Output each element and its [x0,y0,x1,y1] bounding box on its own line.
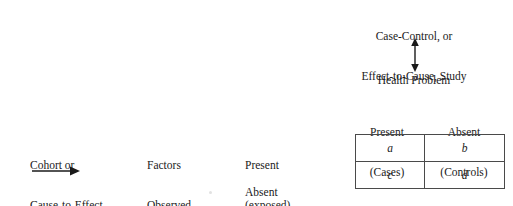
cohort-line-2: Cause-to-Effect [30,199,150,206]
table-cell-d: d [425,162,505,189]
factors-line-2: Observed [147,199,257,206]
row-label-absent-not-exposed: Absent (not exposed) [245,160,350,206]
row-label-absent-line-1: Absent [245,186,350,199]
figure-canvas: Case-Control, or Effect-to-Cause, Study … [0,0,513,206]
table-cell-b: b [425,135,505,162]
table-row: c d [356,162,505,189]
rightward-arrow-icon [32,163,80,179]
contingency-table: a b c d [355,134,505,189]
health-problem-label: Health Problem [324,74,504,87]
table-row: a b [356,135,505,162]
factors-observed-label: Factors Observed for Causation [147,133,257,206]
factors-line-1: Factors [147,159,257,172]
scan-artifact-speck [209,191,212,194]
table-cell-a: a [356,135,425,162]
table-cell-c: c [356,162,425,189]
double-headed-vertical-arrow-icon [402,38,428,72]
